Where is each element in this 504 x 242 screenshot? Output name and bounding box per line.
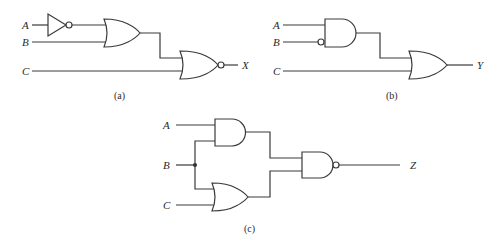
nor-gate-icon <box>180 51 218 79</box>
inversion-bubble-icon <box>66 22 72 28</box>
and-gate-icon <box>215 119 245 146</box>
panel-b: A B C Y (b) <box>272 19 485 102</box>
inversion-bubble-icon <box>318 39 324 45</box>
and-gate-icon <box>325 19 356 47</box>
inversion-bubble-icon <box>218 62 224 68</box>
caption-b: (b) <box>386 90 398 102</box>
logic-circuits-figure: A B C X (a) A B C <box>0 0 504 242</box>
or-gate-icon <box>212 183 248 211</box>
not-gate-icon <box>48 14 66 36</box>
input-label-b: B <box>22 36 29 48</box>
input-label-a: A <box>272 19 280 31</box>
caption-c: (c) <box>244 223 255 235</box>
or-gate-icon <box>104 19 140 47</box>
or-gate-icon <box>409 51 447 79</box>
input-label-c: C <box>22 65 30 77</box>
wire-and-out <box>356 33 413 58</box>
input-label-c: C <box>273 65 281 77</box>
output-label-z: Z <box>410 159 417 171</box>
output-label-y: Y <box>477 59 485 71</box>
input-label-a: A <box>21 19 29 31</box>
input-label-b: B <box>163 159 170 171</box>
output-label-x: X <box>241 59 250 71</box>
inversion-bubble-icon <box>333 162 339 168</box>
input-label-a: A <box>162 119 170 131</box>
wire-or-out <box>248 171 302 197</box>
input-label-c: C <box>163 199 171 211</box>
wire-or-out <box>140 33 184 58</box>
wire-and-out <box>245 132 302 158</box>
nand-gate-icon <box>302 152 333 178</box>
caption-a: (a) <box>114 90 125 102</box>
panel-a: A B C X (a) <box>21 14 250 102</box>
input-label-b: B <box>273 36 280 48</box>
wire-b-branch <box>195 141 215 189</box>
panel-c: A B C Z (c) <box>162 119 417 235</box>
